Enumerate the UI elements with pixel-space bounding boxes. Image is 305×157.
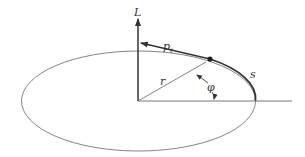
label-r: r [160,75,166,88]
label-L: L [133,6,141,19]
label-s: s [250,68,256,81]
label-p: p [163,40,170,53]
arc-segment-s [210,59,256,101]
label-p-subscript: t [170,47,173,55]
radius-line [138,62,206,101]
orbit-diagram: L p t r φ s [0,0,305,157]
label-phi: φ [207,81,215,94]
particle-dot [207,56,212,61]
